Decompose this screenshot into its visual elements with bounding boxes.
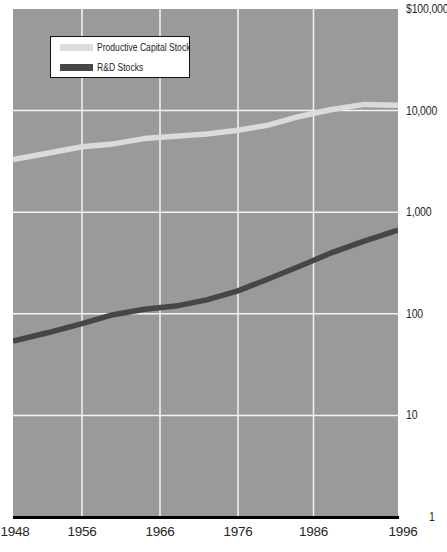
legend-item: R&D Stocks	[60, 61, 189, 73]
x-tick-label: 1976	[223, 524, 252, 539]
y-tick-label: 1,000	[406, 205, 431, 219]
x-tick-label: 1986	[299, 524, 328, 539]
legend-label: R&D Stocks	[97, 61, 143, 73]
x-axis-line	[13, 516, 399, 519]
chart-canvas	[13, 9, 398, 517]
y-tick-label: 1	[429, 510, 435, 524]
plot-background	[13, 9, 398, 517]
legend-label: Productive Capital Stock	[97, 41, 190, 53]
x-tick-label: 1996	[388, 524, 417, 539]
x-tick-label: 1956	[67, 524, 96, 539]
legend-item: Productive Capital Stock	[60, 41, 189, 53]
y-tick-label: 100	[406, 307, 423, 321]
legend: Productive Capital StockR&D Stocks	[50, 36, 190, 78]
y-tick-label: $100,000	[406, 2, 447, 16]
figure: Productive Capital StockR&D Stocks $100,…	[0, 0, 447, 552]
x-tick-label: 1948	[0, 524, 29, 539]
y-tick-label: 10	[406, 408, 417, 422]
legend-swatch-icon	[60, 64, 93, 71]
x-tick-label: 1966	[145, 524, 174, 539]
plot-area: Productive Capital StockR&D Stocks	[13, 9, 398, 517]
legend-swatch-icon	[60, 44, 93, 51]
y-tick-label: 10,000	[406, 104, 437, 118]
